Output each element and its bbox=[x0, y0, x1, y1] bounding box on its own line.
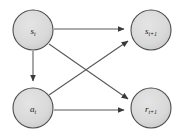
node-s-t-plus-1-subscript: t+1 bbox=[148, 31, 157, 37]
mdp-transition-diagram: st st+1 at rt+1 bbox=[0, 0, 182, 138]
edge-st-to-rt1 bbox=[49, 44, 128, 99]
edge-at-to-st1 bbox=[49, 41, 128, 95]
node-s-t[interactable]: st bbox=[13, 10, 53, 50]
graph-canvas: st st+1 at rt+1 bbox=[0, 0, 182, 138]
node-a-t[interactable]: at bbox=[13, 88, 53, 128]
node-r-t-plus-1[interactable]: rt+1 bbox=[131, 88, 171, 128]
node-r-t-plus-1-subscript: t+1 bbox=[148, 109, 157, 115]
node-s-t-plus-1[interactable]: st+1 bbox=[131, 10, 171, 50]
